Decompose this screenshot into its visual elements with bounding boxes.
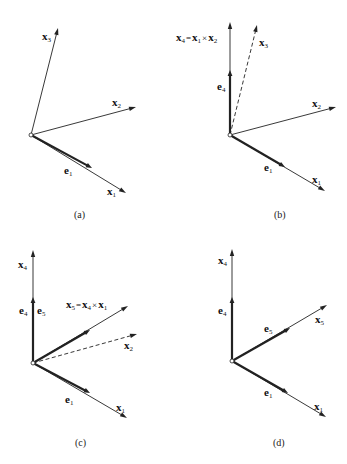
vector-b-x3 xyxy=(230,31,256,135)
origin-b-icon xyxy=(228,133,232,137)
vector-a-e1 xyxy=(31,135,88,166)
label-a-x1: x1 xyxy=(107,186,116,199)
arrowhead-c-x2-icon xyxy=(130,334,137,338)
label-c-x1: x1 xyxy=(116,402,125,415)
label-b-e1: e1 xyxy=(264,162,272,175)
label-c-e5: e5 xyxy=(37,305,45,318)
arrowhead-d-x5-icon xyxy=(320,305,327,310)
label-a-e1: e1 xyxy=(64,165,72,178)
arrowhead-b-x3-icon xyxy=(253,25,257,32)
label-d-e5: e5 xyxy=(264,323,272,336)
equation-c: x5=x4×x1 xyxy=(66,299,107,312)
label-c-e4: e4 xyxy=(19,305,27,318)
origin-c-icon xyxy=(31,361,35,365)
arrowhead-b-x2-icon xyxy=(329,107,336,111)
caption-b: (b) xyxy=(274,210,286,220)
arrowhead-c-x5-icon xyxy=(121,306,128,311)
arrowhead-a-x1-icon xyxy=(119,187,126,193)
label-b-e4: e4 xyxy=(217,81,225,94)
arrowhead-a-x2-icon xyxy=(129,107,136,111)
label-d-x1: x1 xyxy=(314,401,323,414)
label-c-e1: e1 xyxy=(65,394,73,407)
label-d-e4: e4 xyxy=(218,305,226,318)
label-b-x2: x2 xyxy=(312,98,321,111)
vector-b-x2 xyxy=(230,109,330,135)
vector-arrows-canvas xyxy=(0,0,347,464)
arrowhead-d-e4-icon xyxy=(230,297,235,303)
origin-d-icon xyxy=(230,359,234,363)
vector-a-x2 xyxy=(31,109,130,135)
arrowhead-c-e4-icon xyxy=(31,297,36,303)
panel-a-vectors xyxy=(29,28,136,193)
vector-b-e1 xyxy=(230,135,281,164)
label-a-x2: x2 xyxy=(112,97,121,110)
arrowhead-b-x4-icon xyxy=(228,22,232,29)
label-c-x2: x2 xyxy=(124,340,133,353)
vector-c-e1 xyxy=(33,363,86,391)
origin-a-icon xyxy=(29,133,33,137)
vector-c-e5 xyxy=(33,333,86,363)
vector-d-e1 xyxy=(232,361,284,391)
label-d-e1: e1 xyxy=(264,387,272,400)
label-d-x5: x5 xyxy=(315,314,324,327)
caption-a: (a) xyxy=(74,210,85,220)
arrowhead-a-x3-icon xyxy=(54,28,58,35)
label-b-x1: x1 xyxy=(312,174,321,187)
label-d-x4: x4 xyxy=(218,255,227,268)
caption-d: (d) xyxy=(273,438,285,448)
arrowhead-b-e4-icon xyxy=(228,70,233,76)
vector-a-x3 xyxy=(31,34,57,135)
label-a-x3: x3 xyxy=(42,31,51,44)
arrowhead-a-e1-icon xyxy=(86,163,92,168)
vector-d-e5 xyxy=(232,330,286,361)
vector-c-x2 xyxy=(33,336,131,363)
equation-b: x4=x1×x2 xyxy=(176,32,217,45)
panel-c-vectors xyxy=(31,250,137,418)
arrowhead-d-x4-icon xyxy=(230,249,234,256)
panel-d-vectors xyxy=(230,249,327,417)
vector-diagram-figure: x3 x2 e1 x1 (a) x4=x1×x2 x3 e4 x2 e1 x1 … xyxy=(0,0,347,464)
label-b-x3: x3 xyxy=(259,37,268,50)
label-c-x4: x4 xyxy=(18,259,27,272)
arrowhead-c-e1-icon xyxy=(84,388,90,393)
caption-c: (c) xyxy=(75,438,86,448)
arrowhead-c-x4-icon xyxy=(31,250,35,257)
